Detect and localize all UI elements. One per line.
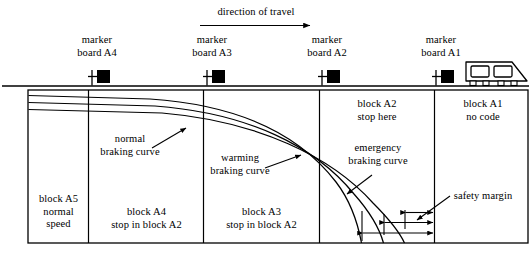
marker-board-a3-line2: board A3 xyxy=(176,47,248,60)
block-a2-label: block A2 stop here xyxy=(336,98,418,123)
emergency-braking-curve-line2: braking curve xyxy=(334,155,422,168)
block-a5-line1: block A5 xyxy=(31,193,86,206)
safety-margin-label: safety margin xyxy=(440,190,526,203)
marker-board-a2-label: marker board A2 xyxy=(291,34,363,59)
warming-braking-curve-label: warming braking curve xyxy=(196,152,284,177)
marker-board-a2-line1: marker xyxy=(291,34,363,47)
train-icon xyxy=(466,62,527,86)
block-a2-line2: stop here xyxy=(336,111,418,124)
train-wheel-4 xyxy=(511,81,517,86)
train-wheel-2 xyxy=(483,81,489,86)
block-a1-line1: block A1 xyxy=(444,98,522,111)
marker-board-a1-line1: marker xyxy=(405,34,477,47)
block-a2-line1: block A2 xyxy=(336,98,418,111)
train-window-1 xyxy=(471,66,489,77)
normal-braking-curve-line2: braking curve xyxy=(88,146,172,159)
block-a5-line3: speed xyxy=(31,218,86,231)
marker-board-a2-icon xyxy=(318,70,340,86)
train-wheel-1 xyxy=(470,81,476,86)
normal-braking-curve-label: normal braking curve xyxy=(88,133,172,158)
marker-board-a1-label: marker board A1 xyxy=(405,34,477,59)
marker-board-a1-line2: board A1 xyxy=(405,47,477,60)
marker-board-a4-line2: board A4 xyxy=(61,47,133,60)
block-a4-line1: block A4 xyxy=(91,206,202,219)
block-a5-line2: normal xyxy=(31,206,86,219)
braking-curve-diagram: direction of travel marker board A4 mark… xyxy=(0,0,531,256)
marker-board-a3-label: marker board A3 xyxy=(176,34,248,59)
marker-board-a4-label: marker board A4 xyxy=(61,34,133,59)
normal-braking-curve-line1: normal xyxy=(88,133,172,146)
train-wheel-3 xyxy=(498,81,504,86)
block-a5-label: block A5 normal speed xyxy=(31,193,86,231)
block-a3-label: block A3 stop in block A2 xyxy=(206,206,317,231)
marker-board-a1-icon xyxy=(432,70,454,86)
block-a3-line1: block A3 xyxy=(206,206,317,219)
block-a3-line2: stop in block A2 xyxy=(206,219,317,232)
marker-board-a2-line2: board A2 xyxy=(291,47,363,60)
marker-board-a4-icon xyxy=(88,70,110,86)
block-a4-line2: stop in block A2 xyxy=(91,219,202,232)
train-window-2 xyxy=(494,66,512,77)
block-a1-label: block A1 no code xyxy=(444,98,522,123)
marker-board-a4-line1: marker xyxy=(61,34,133,47)
emergency-braking-curve-line1: emergency xyxy=(334,142,422,155)
warming-braking-curve-line2: braking curve xyxy=(196,165,284,178)
direction-of-travel-label: direction of travel xyxy=(200,6,312,19)
block-a1-line2: no code xyxy=(444,111,522,124)
marker-board-a3-icon xyxy=(203,70,225,86)
block-a4-label: block A4 stop in block A2 xyxy=(91,206,202,231)
emergency-braking-curve-label: emergency braking curve xyxy=(334,142,422,167)
warming-braking-curve-line1: warming xyxy=(196,152,284,165)
marker-board-a3-line1: marker xyxy=(176,34,248,47)
